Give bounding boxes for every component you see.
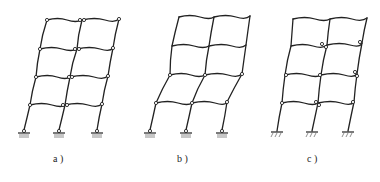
- supports-a: [18, 129, 103, 137]
- label-c: c ): [307, 153, 317, 164]
- label-b: b ): [177, 153, 188, 164]
- label-a: a ): [53, 153, 63, 164]
- hinges-a: [28, 17, 120, 106]
- supports-b: [144, 129, 228, 137]
- hinges-b: [154, 72, 243, 104]
- supports-c: [271, 132, 354, 137]
- frame-a: [18, 17, 121, 137]
- frame-b: [144, 16, 250, 138]
- frame-c: [271, 18, 367, 138]
